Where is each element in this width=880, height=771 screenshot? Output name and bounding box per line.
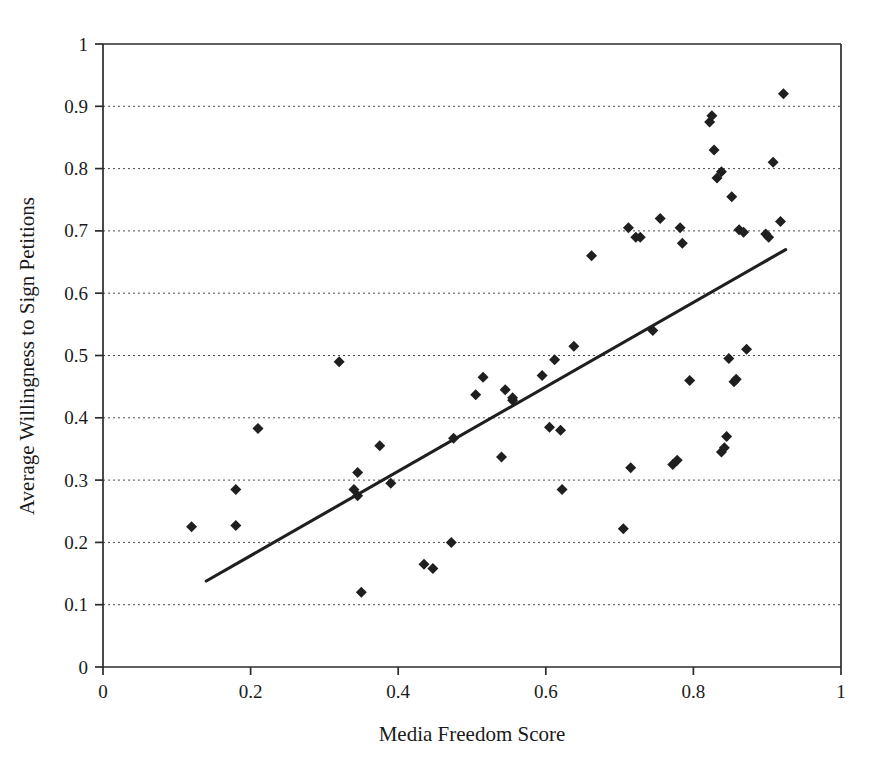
data-point-marker	[549, 354, 560, 365]
data-point-marker	[470, 389, 481, 400]
data-point-marker	[230, 484, 241, 495]
data-point-marker	[427, 563, 438, 574]
data-point-marker	[709, 144, 720, 155]
y-tick-label: 0.6	[64, 283, 88, 304]
y-tick-label: 0.1	[64, 594, 88, 615]
chart-canvas: 00.10.20.30.40.50.60.70.80.91 00.20.40.6…	[0, 0, 880, 771]
x-tick-label: 0.2	[239, 681, 263, 702]
x-tick-labels-group: 00.20.40.60.81	[98, 681, 846, 702]
y-tick-label: 0.7	[64, 220, 88, 241]
x-tick-marks-group	[103, 667, 841, 675]
x-tick-label: 0	[98, 681, 108, 702]
y-tick-label: 0.5	[64, 345, 88, 366]
data-point-marker	[655, 213, 666, 224]
data-point-marker	[721, 431, 732, 442]
data-point-marker	[446, 537, 457, 548]
y-tick-label: 0	[79, 657, 89, 678]
data-point-marker	[623, 222, 634, 233]
y-tick-labels-group: 00.10.20.30.40.50.60.70.80.91	[64, 34, 88, 678]
y-tick-label: 0.4	[64, 407, 88, 428]
y-tick-label: 0.8	[64, 158, 88, 179]
data-point-marker	[741, 344, 752, 355]
data-point-marker	[478, 372, 489, 383]
data-point-marker	[352, 467, 363, 478]
data-point-marker	[675, 222, 686, 233]
data-point-marker	[568, 341, 579, 352]
data-point-marker	[625, 462, 636, 473]
data-point-marker	[496, 452, 507, 463]
data-point-marker	[334, 356, 345, 367]
data-point-marker	[726, 191, 737, 202]
data-point-marker	[555, 425, 566, 436]
y-tick-marks-group	[95, 44, 103, 667]
y-tick-label: 0.9	[64, 96, 88, 117]
data-point-marker	[374, 440, 385, 451]
x-tick-label: 0.4	[386, 681, 410, 702]
regression-trend-line	[206, 250, 785, 581]
data-point-marker	[419, 559, 430, 570]
data-point-marker	[768, 157, 779, 168]
data-point-marker	[775, 216, 786, 227]
data-point-marker	[186, 521, 197, 532]
data-point-marker	[677, 238, 688, 249]
data-point-marker	[684, 375, 695, 386]
data-point-marker	[252, 423, 263, 434]
y-axis-title: Average Willingness to Sign Petitions	[15, 197, 39, 515]
data-point-marker	[356, 587, 367, 598]
data-point-marker	[586, 250, 597, 261]
data-point-marker	[723, 353, 734, 364]
x-axis-title: Media Freedom Score	[379, 722, 566, 746]
y-tick-label: 0.3	[64, 470, 88, 491]
x-tick-label: 1	[836, 681, 846, 702]
x-tick-label: 0.8	[682, 681, 706, 702]
scatter-plot-figure: 00.10.20.30.40.50.60.70.80.91 00.20.40.6…	[0, 0, 880, 771]
data-point-marker	[537, 370, 548, 381]
data-points-group	[186, 88, 789, 597]
y-tick-label: 0.2	[64, 532, 88, 553]
data-point-marker	[557, 484, 568, 495]
data-point-marker	[230, 520, 241, 531]
data-point-marker	[778, 88, 789, 99]
y-tick-label: 1	[79, 34, 89, 55]
data-point-marker	[544, 422, 555, 433]
data-point-marker	[618, 523, 629, 534]
data-point-marker	[500, 384, 511, 395]
x-tick-label: 0.6	[534, 681, 558, 702]
